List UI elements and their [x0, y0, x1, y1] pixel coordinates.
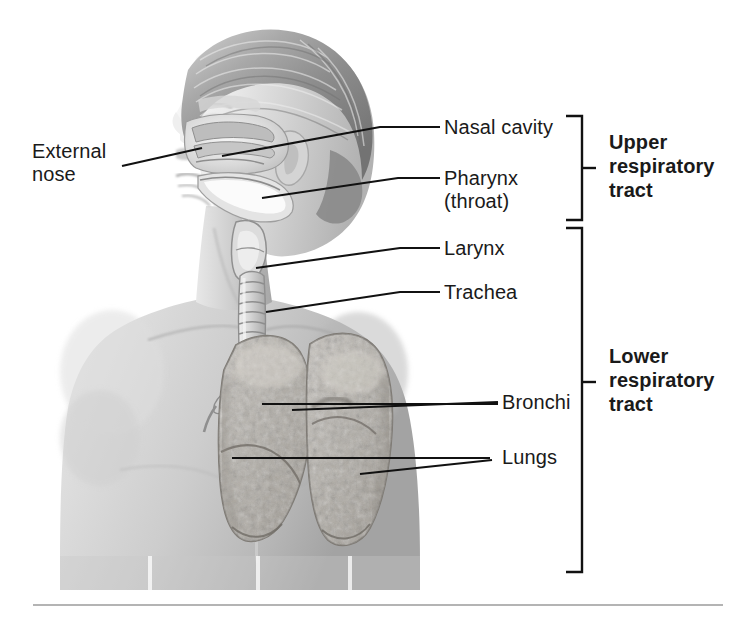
leader-external-nose [122, 148, 202, 166]
leader-larynx [256, 248, 440, 268]
label-lower-respiratory-tract: Lower respiratory tract [609, 344, 715, 416]
bracket-upper [566, 116, 582, 220]
anatomy-illustration [0, 0, 753, 620]
leader-pharynx [262, 178, 440, 198]
leader-bronchi-b [292, 402, 498, 410]
label-trachea: Trachea [444, 281, 517, 304]
label-lungs: Lungs [502, 446, 557, 469]
respiratory-system-figure: External nose Nasal cavity Pharynx (thro… [0, 0, 753, 620]
label-external-nose: External nose [32, 140, 106, 186]
leader-nasal-cavity [222, 127, 440, 156]
label-bronchi: Bronchi [502, 391, 571, 414]
leader-lungs-b [360, 460, 492, 474]
label-pharynx: Pharynx (throat) [444, 167, 518, 213]
label-larynx: Larynx [444, 237, 505, 260]
label-upper-respiratory-tract: Upper respiratory tract [609, 130, 715, 202]
leader-trachea [266, 292, 440, 312]
label-nasal-cavity: Nasal cavity [444, 116, 553, 139]
footer-rule [33, 604, 723, 606]
